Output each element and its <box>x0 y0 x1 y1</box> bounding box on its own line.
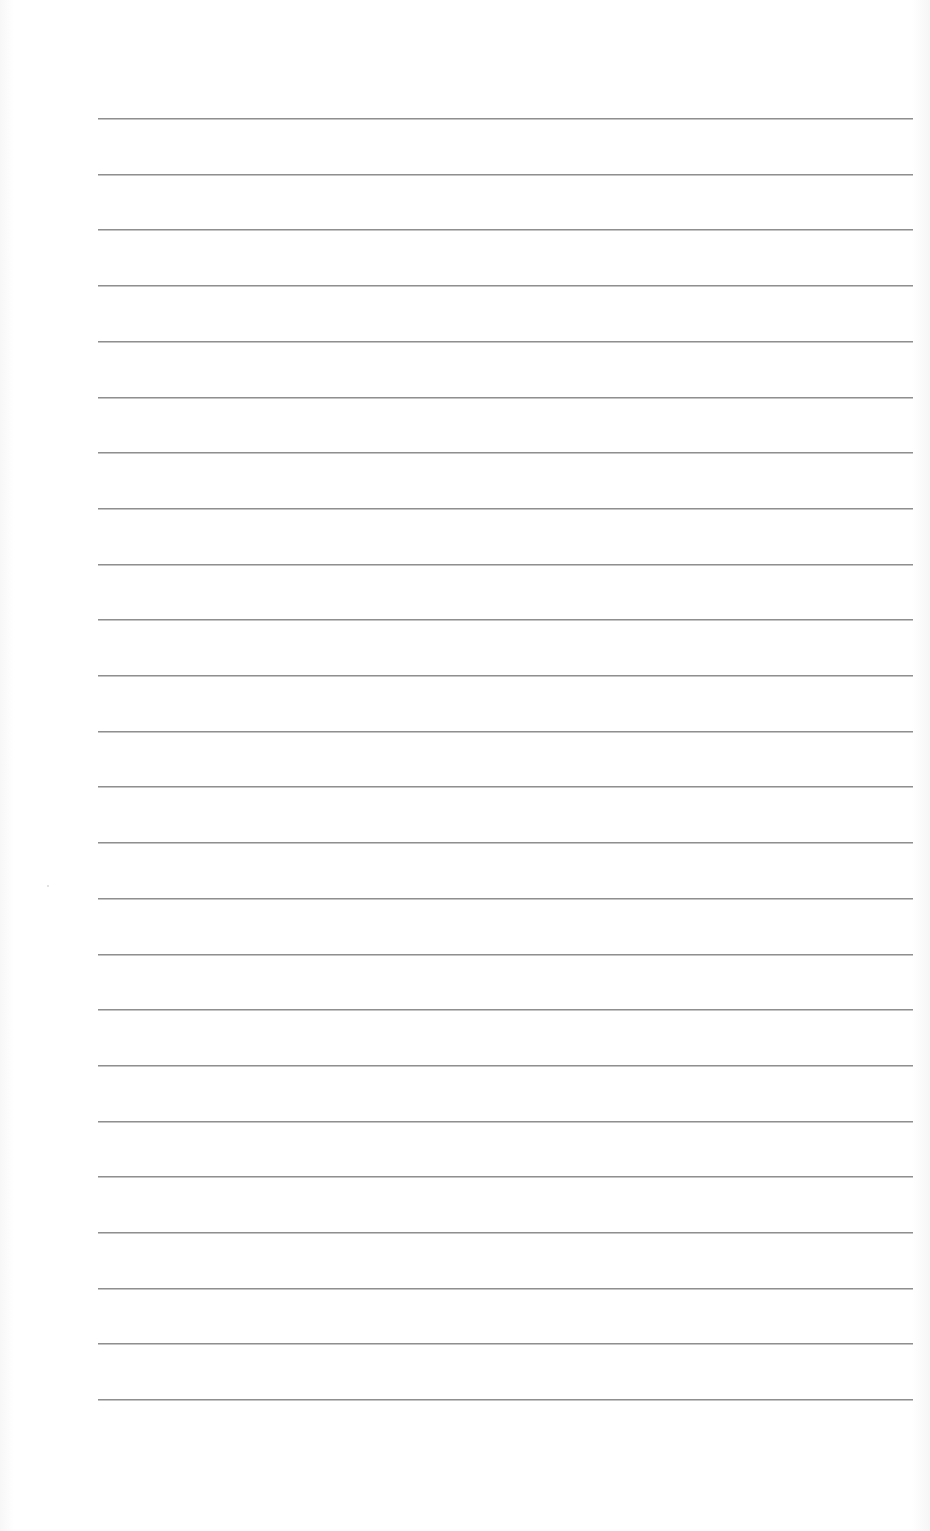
ruled-line <box>98 229 913 231</box>
ruled-line <box>98 341 913 343</box>
ruled-line <box>98 619 913 621</box>
ruled-line <box>98 508 913 510</box>
ruled-line <box>98 1343 913 1345</box>
notebook-page <box>0 0 930 1531</box>
ruled-line <box>98 1065 913 1067</box>
ruled-line <box>98 1288 913 1290</box>
ruled-line <box>98 731 913 733</box>
ruled-line <box>98 1009 913 1011</box>
paper-speck <box>47 885 49 887</box>
ruled-line <box>98 898 913 900</box>
ruled-line <box>98 564 913 566</box>
ruled-line <box>98 842 913 844</box>
ruled-line <box>98 285 913 287</box>
ruled-line <box>98 118 913 120</box>
ruled-line <box>98 174 913 176</box>
ruled-line <box>98 1399 913 1401</box>
ruled-line <box>98 397 913 399</box>
ruled-line <box>98 452 913 454</box>
ruled-line <box>98 1232 913 1234</box>
ruled-line <box>98 1176 913 1178</box>
ruled-line <box>98 954 913 956</box>
ruled-line <box>98 675 913 677</box>
ruled-line <box>98 1121 913 1123</box>
ruled-line <box>98 786 913 788</box>
